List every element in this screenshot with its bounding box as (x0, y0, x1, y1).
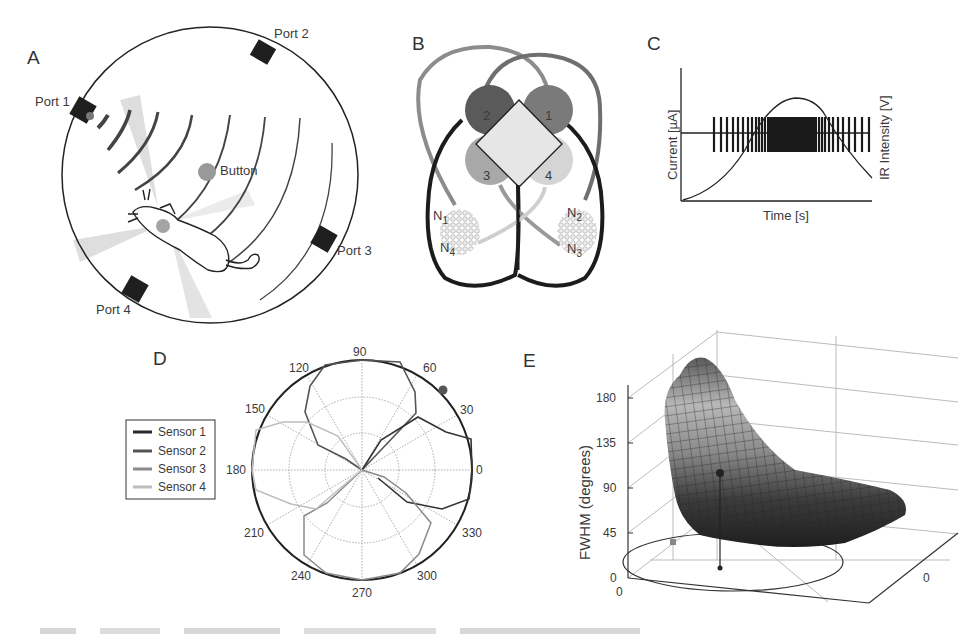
legend-sensor-1: Sensor 1 (158, 425, 206, 439)
base-marker (718, 566, 723, 571)
angle-label-150: 150 (245, 402, 265, 416)
trace-sensor-3 (304, 470, 431, 580)
angle-label-240: 240 (291, 569, 311, 583)
button-label: Button (220, 163, 258, 178)
sensor-label-3: 3 (483, 168, 490, 183)
angle-label-0: 0 (476, 463, 483, 477)
panel-c: C Current [µA] IR Intensity [V] Time [s] (647, 33, 892, 223)
sensor-label-4: 4 (545, 168, 552, 183)
z-tick-180: 180 (596, 391, 616, 405)
z-tick-0: 0 (610, 571, 617, 585)
wire-4 (478, 187, 545, 243)
panel-letter-a: A (27, 47, 40, 68)
peak-marker (716, 469, 724, 477)
y-axis-label-left: Current [µA] (665, 110, 680, 180)
angle-label-330: 330 (462, 526, 482, 540)
y-axis-label-right: IR Intensity [V] (877, 95, 892, 180)
port-3 (310, 225, 337, 252)
angle-label-30: 30 (460, 403, 474, 417)
legend-sensor-4: Sensor 4 (158, 480, 206, 494)
panel-d: D 0 30 60 90 120 150 180 210 240 270 300 (126, 345, 483, 600)
legend: Sensor 1 Sensor 2 Sensor 3 Sensor 4 (126, 420, 215, 499)
trace-sensor-4 (252, 422, 362, 509)
angle-label-270: 270 (352, 586, 372, 600)
x-axis-label: Time [s] (763, 208, 809, 223)
z-tick-135: 135 (596, 436, 616, 450)
port-4-label: Port 4 (96, 302, 131, 317)
trace-sensor-1 (362, 417, 472, 509)
fwhm-surface (665, 358, 906, 547)
sensor-label-1: 1 (545, 108, 552, 123)
panel-e: E (523, 330, 958, 603)
port-4 (121, 275, 148, 302)
angle-label-90: 90 (353, 345, 367, 359)
x-origin-label: 0 (616, 585, 623, 599)
panel-a: A Port 1 Port 2 Port 3 Port 4 Butt (27, 26, 372, 323)
rat-head-sensor (156, 219, 170, 233)
port-1-led (86, 112, 94, 120)
nerve-label-n1: N1 (433, 208, 448, 226)
dense-pulse-block (767, 117, 817, 152)
panel-b: B 1 2 3 4 N1 N2 N3 N4 (412, 33, 602, 286)
y-axis (869, 533, 958, 603)
angle-label-300: 300 (417, 569, 437, 583)
angle-label-210: 210 (244, 526, 264, 540)
caption-cutoff (40, 628, 640, 634)
wire-3 (500, 185, 560, 245)
button-target (198, 163, 216, 181)
panel-letter-e: E (523, 350, 536, 371)
port-1-label: Port 1 (35, 94, 70, 109)
z-tick-90: 90 (603, 481, 617, 495)
sensor-label-2: 2 (483, 108, 490, 123)
ellipse-marker (670, 539, 676, 545)
angle-label-60: 60 (423, 361, 437, 375)
port-2 (250, 39, 276, 65)
angle-label-180: 180 (226, 463, 246, 477)
figure-canvas: A Port 1 Port 2 Port 3 Port 4 Butt (0, 0, 979, 634)
port-2-label: Port 2 (274, 26, 309, 41)
panel-letter-b: B (412, 33, 425, 54)
trace-sensor-2 (305, 360, 416, 470)
legend-sensor-2: Sensor 2 (158, 444, 206, 458)
port-3-label: Port 3 (337, 243, 372, 258)
z-tick-45: 45 (603, 526, 617, 540)
polar-marker (439, 386, 448, 395)
panel-letter-c: C (647, 33, 661, 54)
z-ticks (628, 398, 633, 533)
angle-label-120: 120 (289, 361, 309, 375)
panel-letter-d: D (153, 348, 167, 369)
z-axis-label: FWHM (degrees) (576, 445, 593, 560)
y-origin-label: 0 (923, 571, 930, 585)
legend-sensor-3: Sensor 3 (158, 462, 206, 476)
